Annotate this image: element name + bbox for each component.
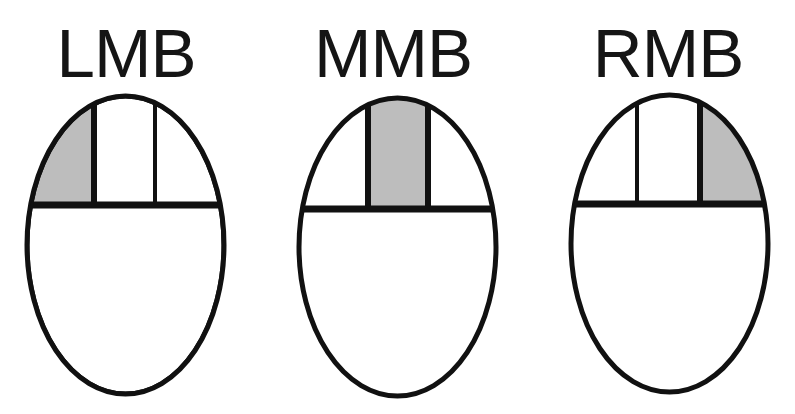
mouse-icon-lmb	[20, 90, 224, 394]
middle-button-highlight	[368, 90, 428, 209]
mouse-icon-mmb	[299, 90, 496, 396]
mouse-icon-rmb	[571, 90, 780, 392]
mouse-diagram	[0, 0, 795, 414]
left-button-highlight	[20, 90, 94, 205]
